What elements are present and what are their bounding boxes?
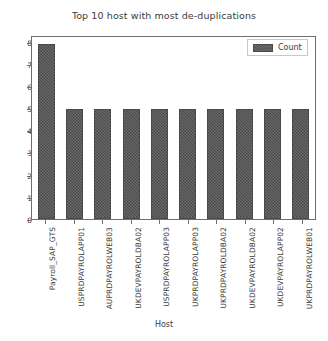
bar[interactable] bbox=[94, 109, 111, 219]
x-tick-label: UKDEVPAYROLDBA02 bbox=[134, 227, 143, 309]
bar[interactable] bbox=[207, 109, 224, 219]
legend-swatch-count bbox=[253, 44, 273, 52]
bar-slot bbox=[258, 37, 286, 219]
x-tick-label: Payroll_SAP_GTS bbox=[48, 227, 57, 290]
bar-chart-figure: Top 10 host with most de-duplications 01… bbox=[0, 0, 328, 341]
x-tick-label: USPRDPAYROLAPP03 bbox=[162, 227, 171, 307]
x-tick-label: UKPRDPAYROLWEB01 bbox=[305, 227, 314, 309]
x-tick-label: USPRDPAYROLAPP01 bbox=[77, 227, 86, 307]
legend-label-count: Count bbox=[278, 43, 302, 52]
x-tick-label: AUPRDPAYROLWEB03 bbox=[105, 227, 114, 309]
bar[interactable] bbox=[151, 109, 168, 219]
bar-slot bbox=[287, 37, 315, 219]
bar[interactable] bbox=[292, 109, 309, 219]
x-tick-mark bbox=[74, 220, 75, 224]
x-tick-mark bbox=[188, 220, 189, 224]
x-axis-title: Host bbox=[0, 320, 328, 329]
bar[interactable] bbox=[123, 109, 140, 219]
bar[interactable] bbox=[264, 109, 281, 219]
bar-slot bbox=[89, 37, 117, 219]
bar[interactable] bbox=[236, 109, 253, 219]
plot-area bbox=[31, 36, 316, 220]
x-tick-mark bbox=[131, 220, 132, 224]
x-tick-mark bbox=[45, 220, 46, 224]
bar-slot bbox=[173, 37, 201, 219]
bars-layer bbox=[32, 37, 315, 219]
bar-slot bbox=[60, 37, 88, 219]
bar-slot bbox=[117, 37, 145, 219]
chart-legend[interactable]: Count bbox=[247, 39, 308, 56]
x-tick-mark bbox=[216, 220, 217, 224]
x-tick-mark bbox=[102, 220, 103, 224]
x-tick-label: UKPRDPAYROLDBA02 bbox=[219, 227, 228, 309]
x-tick-label: UKDEVPAYROLAPP02 bbox=[276, 227, 285, 307]
x-tick-mark bbox=[273, 220, 274, 224]
chart-title: Top 10 host with most de-duplications bbox=[0, 10, 328, 21]
x-tick-mark bbox=[245, 220, 246, 224]
x-tick-label: UKPRDPAYROLAPP03 bbox=[191, 227, 200, 307]
bar-slot bbox=[32, 37, 60, 219]
x-tick-mark bbox=[159, 220, 160, 224]
bar-slot bbox=[230, 37, 258, 219]
bar-slot bbox=[202, 37, 230, 219]
y-tick-mark bbox=[27, 220, 31, 221]
x-tick-label: UKDEVPAYROLDBA02 bbox=[248, 227, 257, 309]
bar[interactable] bbox=[179, 109, 196, 219]
bar[interactable] bbox=[66, 109, 83, 219]
x-tick-mark bbox=[302, 220, 303, 224]
bar[interactable] bbox=[38, 44, 55, 219]
bar-slot bbox=[145, 37, 173, 219]
